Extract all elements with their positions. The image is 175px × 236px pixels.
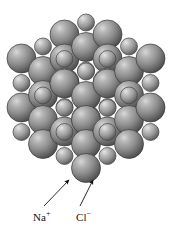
sodium-ion-sphere xyxy=(56,148,73,165)
sodium-ion-sphere xyxy=(35,87,52,104)
legend-label-sodium-ion: Na+ xyxy=(33,212,51,223)
sodium-ion-sphere xyxy=(142,124,159,141)
lattice-sphere-group xyxy=(7,14,165,183)
chloride-ion-sphere xyxy=(72,154,101,183)
sodium-ion-sphere xyxy=(13,75,30,92)
sodium-ion-sphere xyxy=(142,75,159,92)
sodium-ion-sphere xyxy=(78,14,95,31)
sodium-ion-sphere xyxy=(99,148,116,165)
sodium-ion-sphere xyxy=(99,124,116,141)
sodium-charge: + xyxy=(46,209,51,218)
sodium-ion-sphere xyxy=(56,124,73,141)
crystal-lattice-illustration xyxy=(0,0,175,236)
chloride-ion-sphere xyxy=(136,44,165,73)
chloride-charge: − xyxy=(87,209,92,218)
nacl-crystal-figure: Na+ Cl− xyxy=(0,0,175,236)
sodium-ion-sphere xyxy=(99,100,116,117)
sodium-ion-sphere xyxy=(35,38,52,55)
sodium-ion-sphere xyxy=(121,38,138,55)
sodium-ion-sphere xyxy=(99,51,116,68)
chloride-symbol: Cl xyxy=(76,211,87,223)
chloride-ion-sphere xyxy=(115,130,144,159)
legend-label-chloride-ion: Cl− xyxy=(76,212,91,223)
sodium-ion-sphere xyxy=(56,51,73,68)
sodium-ion-sphere xyxy=(13,124,30,141)
sodium-ion-sphere xyxy=(56,100,73,117)
annotation-arrow-group xyxy=(44,180,93,206)
arrow-to-chloride-ion xyxy=(80,180,93,206)
arrow-to-sodium-ion xyxy=(44,180,69,206)
sodium-ion-sphere xyxy=(121,87,138,104)
chloride-ion-sphere xyxy=(136,93,165,122)
sodium-symbol: Na xyxy=(33,211,46,223)
sodium-ion-sphere xyxy=(78,63,95,80)
